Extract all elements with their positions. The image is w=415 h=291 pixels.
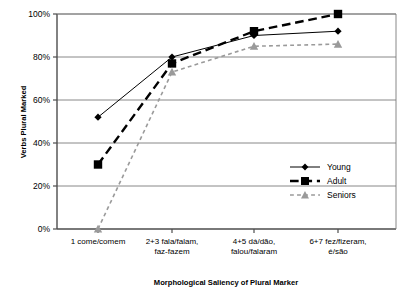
x-tick-label-line: faz-fazem: [154, 247, 189, 256]
chart-background: [0, 0, 415, 291]
legend-label: Adult: [327, 176, 347, 186]
x-tick-label-line: 2+3 fala/falam,: [146, 237, 199, 246]
y-tick-label: 60%: [33, 95, 50, 105]
data-point-square: [250, 27, 258, 35]
x-tick-label-line: é/são: [328, 247, 348, 256]
y-tick-label: 0%: [38, 224, 51, 234]
x-tick-label-line: 4+5 dá/dão,: [233, 237, 275, 246]
line-chart: 0%20%40%60%80%100% 1 come/comem2+3 fala/…: [0, 0, 415, 291]
x-tick-label-line: 6+7 fez/fizeram,: [309, 237, 366, 246]
x-tick-label-line: 1 come/comem: [71, 237, 126, 246]
data-point-square: [301, 177, 309, 185]
y-tick-label: 80%: [33, 52, 50, 62]
legend-label: Seniors: [327, 190, 356, 200]
y-tick-label: 20%: [33, 181, 50, 191]
x-tick-label: 4+5 dá/dão,falou/falaram: [231, 237, 278, 256]
x-axis-title: Morphological Saliency of Plural Marker: [154, 278, 298, 287]
chart-figure: 0%20%40%60%80%100% 1 come/comem2+3 fala/…: [0, 0, 415, 291]
y-axis-title: Verbs Plural Marked: [19, 85, 28, 158]
data-point-square: [94, 160, 102, 168]
y-tick-label: 40%: [33, 138, 50, 148]
legend-label: Young: [327, 162, 351, 172]
y-tick-label: 100%: [28, 9, 50, 19]
data-point-square: [168, 59, 176, 67]
data-point-square: [334, 10, 342, 18]
x-tick-label-line: falou/falaram: [231, 247, 278, 256]
x-tick-label: 1 come/comem: [71, 237, 126, 246]
